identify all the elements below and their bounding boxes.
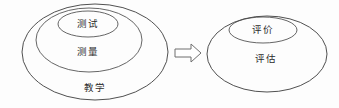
left-outer-label: 教学 [84, 83, 105, 93]
diagram-canvas: 测试 测量 教学 评价 评估 [0, 0, 339, 108]
left-inner-label: 测试 [77, 19, 98, 29]
right-inner-label: 评价 [252, 25, 273, 35]
left-middle-label: 测量 [77, 47, 98, 57]
implies-arrow-icon [175, 44, 201, 62]
diagram-shapes [0, 0, 339, 108]
right-outer-label: 评估 [255, 54, 276, 64]
